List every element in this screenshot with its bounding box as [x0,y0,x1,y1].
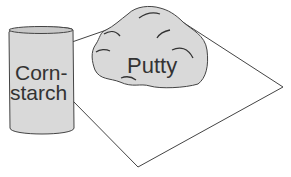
can-label-line2: starch [10,81,67,104]
putty-label: Putty [127,53,177,78]
can-rim [9,27,73,34]
diagram: Putty Corn- starch [0,0,291,177]
